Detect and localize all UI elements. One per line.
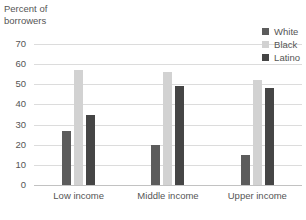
bar-groups: Low incomeMiddle incomeUpper income	[34, 44, 302, 185]
bar-white-upper-income[interactable]	[241, 155, 250, 185]
y-tick-label-40: 40	[2, 98, 26, 109]
y-tick-label-20: 20	[2, 139, 26, 150]
bar-group: Middle income	[123, 44, 212, 185]
bar-black-upper-income[interactable]	[253, 80, 262, 185]
legend-item-latino[interactable]: Latino	[262, 52, 300, 63]
legend: WhiteBlackLatino	[262, 26, 300, 63]
bar-latino-middle-income[interactable]	[175, 86, 184, 185]
bar-group: Upper income	[213, 44, 302, 185]
legend-item-black[interactable]: Black	[262, 39, 300, 50]
bar-white-low-income[interactable]	[62, 131, 71, 185]
legend-swatch-icon	[262, 28, 269, 35]
legend-label: Black	[274, 39, 297, 50]
bar-latino-upper-income[interactable]	[265, 88, 274, 185]
bar-set	[213, 44, 302, 185]
y-tick-label-0: 0	[2, 179, 26, 190]
bar-white-middle-income[interactable]	[151, 145, 160, 185]
y-tick-label-60: 60	[2, 58, 26, 69]
bar-chart: Percent of borrowers 706050403020100 Low…	[0, 0, 306, 220]
x-axis-label: Middle income	[123, 190, 212, 201]
bar-black-low-income[interactable]	[74, 70, 83, 185]
legend-label: Latino	[274, 52, 300, 63]
y-tick-label-10: 10	[2, 159, 26, 170]
bar-set	[34, 44, 123, 185]
legend-swatch-icon	[262, 41, 269, 48]
legend-label: White	[274, 26, 298, 37]
y-axis-title: Percent of borrowers	[4, 3, 47, 26]
y-tick-label-50: 50	[2, 78, 26, 89]
y-tick-label-30: 30	[2, 119, 26, 130]
legend-swatch-icon	[262, 54, 269, 61]
x-axis-label: Low income	[34, 190, 123, 201]
y-tick-label-70: 70	[2, 38, 26, 49]
legend-item-white[interactable]: White	[262, 26, 300, 37]
plot-area: 706050403020100 Low incomeMiddle incomeU…	[34, 44, 302, 185]
x-axis-label: Upper income	[213, 190, 302, 201]
bar-latino-low-income[interactable]	[86, 115, 95, 186]
bar-black-middle-income[interactable]	[163, 72, 172, 185]
bar-group: Low income	[34, 44, 123, 185]
bar-set	[123, 44, 212, 185]
gridline-0: 0	[34, 185, 302, 186]
